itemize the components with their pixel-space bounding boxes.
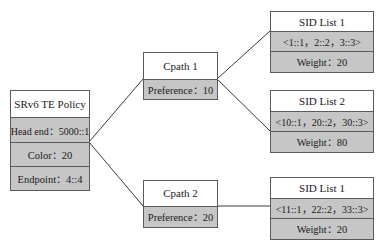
policy-endpoint: Endpoint：4::4 <box>11 166 89 191</box>
cpath-2-title: Cpath 2 <box>144 181 217 206</box>
policy-box: SRv6 TE Policy Head end：5000::1 Color：20… <box>10 90 90 191</box>
sid-list-1-weight: Weight：20 <box>271 51 373 72</box>
policy-head-end: Head end：5000::1 <box>11 117 89 142</box>
link-cpath1-sidlist1 <box>217 31 270 79</box>
sid-list-2-sids: <10::1，20::2，30::3> <box>271 111 373 130</box>
cpath-2-box: Cpath 2 Preference：20 <box>143 180 218 228</box>
link-policy-cpath1 <box>89 79 143 142</box>
policy-color: Color：20 <box>11 142 89 166</box>
sid-list-2-title: SID List 2 <box>271 91 373 111</box>
sid-list-1-box: SID List 1 <1::1，2::2，3::3> Weight：20 <box>270 11 374 73</box>
sid-list-2-weight: Weight：80 <box>271 131 373 152</box>
sid-list-2-box: SID List 2 <10::1，20::2，30::3> Weight：80 <box>270 90 374 153</box>
cpath-2-preference: Preference：20 <box>144 206 217 227</box>
link-cpath1-sidlist2 <box>217 79 270 131</box>
sid-list-3-sids: <11::1，22::2，33::3> <box>271 198 373 217</box>
cpath-1-title: Cpath 1 <box>144 53 217 79</box>
link-policy-cpath2 <box>89 142 143 206</box>
sid-list-1-sids: <1::1，2::2，3::3> <box>271 31 373 50</box>
cpath-1-box: Cpath 1 Preference：10 <box>143 52 218 100</box>
sid-list-3-title: SID List 1 <box>271 178 373 198</box>
cpath-1-preference: Preference：10 <box>144 79 217 99</box>
sid-list-1-title: SID List 1 <box>271 12 373 31</box>
sid-list-3-weight: Weight：20 <box>271 218 373 239</box>
policy-title: SRv6 TE Policy <box>11 91 89 117</box>
sid-list-3-box: SID List 1 <11::1，22::2，33::3> Weight：20 <box>270 177 374 240</box>
